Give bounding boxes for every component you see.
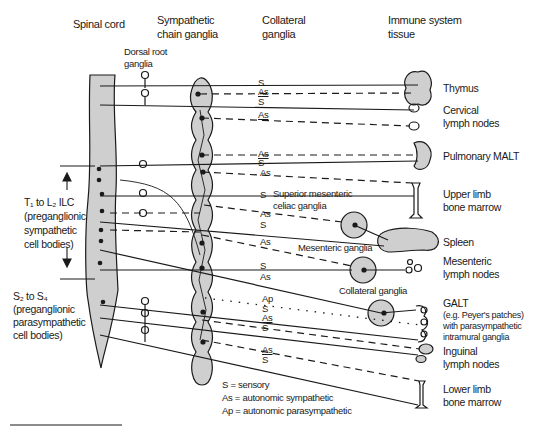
header-immune-2: tissue [388,27,415,41]
target-lower-limb-2: bone marrow [443,396,501,409]
upper-limb-bone [410,183,422,218]
target-inguinal-1: Inguinal [443,345,477,358]
fiber-tag: S [260,261,266,271]
target-galt: GALT [443,297,468,310]
target-pulmonary-malt: Pulmonary MALT [443,150,519,163]
label-dorsal-root-1: Dorsal root [124,46,167,58]
label-mesenteric-ganglia: Mesenteric ganglia [298,242,372,254]
label-superior-mesenteric-2: celiac ganglia [273,200,326,212]
fiber-tag: S [260,190,266,200]
thymus-shape [405,71,432,105]
header-sympathetic-chain-2: chain ganglia [157,27,218,41]
fiber-tag: As [260,168,271,178]
target-galt-4: intramural ganglia [443,332,509,344]
fiber-tag: As [260,237,271,247]
label-superior-mesenteric-1: Superior mesenteric [273,188,352,200]
label-thoracolumbar-4: cell bodies) [24,238,74,251]
label-sacral-2: (preganglionic [13,303,75,316]
header-immune-1: Immune system [388,13,462,27]
fiber-tag: S [262,355,268,365]
label-thoracolumbar-1: T₁ to L₂ ILC [24,196,74,209]
label-sacral-3: parasympathetic [13,316,86,329]
label-thoracolumbar-2: (preganglionic [24,210,86,223]
label-sacral-4: cell bodies) [13,329,63,342]
target-mesenteric-1: Mesenteric [443,255,491,268]
target-cervical-1: Cervical [443,104,479,117]
target-thymus: Thymus [443,82,479,95]
spleen-shape [378,228,439,252]
label-thoracolumbar-3: sympathetic [24,224,77,237]
lower-limb-bone [416,381,427,408]
target-mesenteric-2: lymph nodes [443,268,499,281]
fiber-tag: As [258,110,269,120]
legend-sensory: S = sensory [222,378,269,391]
fiber-tag: S [260,220,266,230]
target-inguinal-2: lymph nodes [443,358,499,371]
target-galt-2: (e.g. Peyer's patches) [443,310,524,322]
target-cervical-2: lymph nodes [443,117,499,130]
legend-autonomic-sympathetic: As = autonomic sympathetic [222,391,333,404]
fiber-tag: As [260,272,271,282]
target-upper-limb-1: Upper limb [443,188,491,201]
fiber-tag: S [262,323,268,333]
target-spleen: Spleen [443,236,474,249]
target-galt-3: with parasympathetic [443,321,522,333]
legend-autonomic-parasympathetic: Ap = autonomic parasympathetic [222,404,352,417]
label-dorsal-root-2: ganglia [124,58,153,70]
label-collateral-ganglia: Collateral ganglia [339,285,407,297]
spinal-cord-shape [86,75,118,368]
header-sympathetic-chain-1: Sympathetic [157,13,214,27]
inguinal-node [419,344,433,354]
fiber-tag: S [258,97,264,107]
header-collateral-1: Collateral [262,13,305,27]
target-lower-limb-1: Lower limb [443,383,491,396]
pulmonary-malt-shape [414,142,431,170]
header-collateral-2: ganglia [262,27,295,41]
target-upper-limb-2: bone marrow [443,201,501,214]
label-sacral-1: S₂ to S₄ [13,290,48,303]
header-spinal-cord: Spinal cord [73,17,125,31]
fiber-tag: As [260,209,271,219]
